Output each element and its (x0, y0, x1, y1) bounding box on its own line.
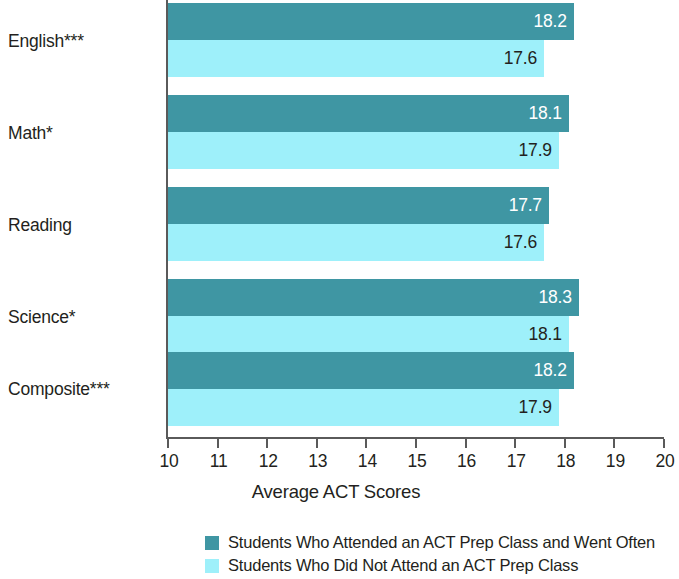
x-tick-label-19: 19 (595, 451, 635, 472)
bar-value-reading-attended: 17.7 (509, 197, 542, 215)
x-tick-20 (663, 439, 665, 448)
bar-reading-attended: 17.7 (167, 187, 549, 224)
x-tick-label-12: 12 (248, 451, 288, 472)
x-tick-10 (167, 439, 169, 448)
legend-label-not-attended: Students Who Did Not Attend an ACT Prep … (228, 556, 578, 575)
category-label-science: Science* (8, 307, 160, 328)
bar-science-not-attended: 18.1 (167, 316, 569, 353)
x-tick-label-15: 15 (397, 451, 437, 472)
x-tick-17 (514, 439, 516, 448)
x-tick-label-18: 18 (546, 451, 586, 472)
plot-area: 18.2 17.6 18.1 17.9 17.7 17.6 18.3 18.1 … (167, 0, 663, 437)
bar-english-not-attended: 17.6 (167, 40, 544, 77)
x-tick-16 (465, 439, 467, 448)
bar-value-composite-not-attended: 17.9 (519, 399, 552, 417)
legend-swatch-not-attended-icon (205, 559, 219, 573)
category-label-english: English*** (8, 31, 160, 52)
bar-reading-not-attended: 17.6 (167, 224, 544, 261)
category-label-math: Math* (8, 123, 160, 144)
bar-math-attended: 18.1 (167, 95, 569, 132)
bar-science-attended: 18.3 (167, 279, 579, 316)
x-tick-15 (415, 439, 417, 448)
category-label-reading: Reading (8, 215, 160, 236)
y-axis-line (166, 0, 168, 437)
chart-legend: Students Who Attended an ACT Prep Class … (205, 531, 655, 577)
bar-value-science-not-attended: 18.1 (528, 326, 561, 344)
legend-item-attended: Students Who Attended an ACT Prep Class … (205, 531, 655, 554)
x-tick-11 (217, 439, 219, 448)
x-tick-label-11: 11 (199, 451, 239, 472)
bar-value-math-attended: 18.1 (528, 105, 561, 123)
bar-value-english-not-attended: 17.6 (504, 50, 537, 68)
category-label-composite: Composite*** (8, 379, 160, 400)
x-tick-label-14: 14 (347, 451, 387, 472)
legend-label-attended: Students Who Attended an ACT Prep Class … (228, 533, 655, 552)
x-tick-label-20: 20 (645, 451, 679, 472)
bar-math-not-attended: 17.9 (167, 132, 559, 169)
x-tick-label-16: 16 (447, 451, 487, 472)
x-tick-12 (266, 439, 268, 448)
x-tick-13 (316, 439, 318, 448)
x-tick-19 (613, 439, 615, 448)
x-tick-label-13: 13 (298, 451, 338, 472)
x-tick-label-17: 17 (496, 451, 536, 472)
bar-value-science-attended: 18.3 (538, 289, 571, 307)
x-tick-14 (365, 439, 367, 448)
bar-value-english-attended: 18.2 (533, 13, 566, 31)
legend-swatch-attended-icon (205, 536, 219, 550)
x-axis-title: Average ACT Scores (0, 481, 672, 503)
bar-value-math-not-attended: 17.9 (519, 142, 552, 160)
bar-composite-attended: 18.2 (167, 352, 574, 389)
x-tick-label-10: 10 (149, 451, 189, 472)
x-tick-18 (564, 439, 566, 448)
bar-english-attended: 18.2 (167, 3, 574, 40)
bar-value-composite-attended: 18.2 (533, 362, 566, 380)
bar-value-reading-not-attended: 17.6 (504, 234, 537, 252)
bar-composite-not-attended: 17.9 (167, 389, 559, 426)
legend-item-not-attended: Students Who Did Not Attend an ACT Prep … (205, 554, 655, 577)
